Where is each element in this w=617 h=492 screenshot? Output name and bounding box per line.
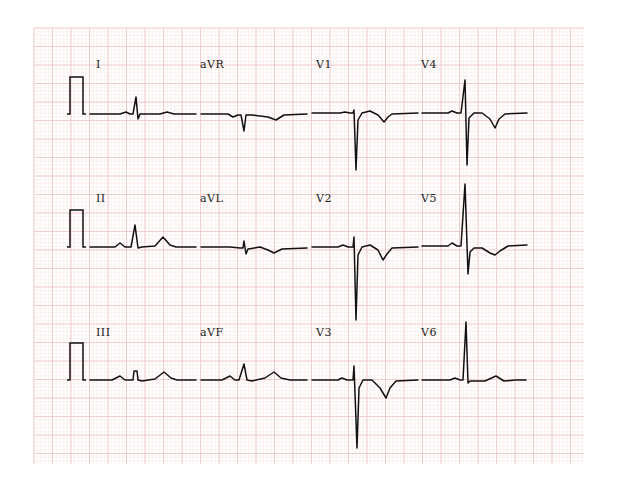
lead-label-v6: V6 bbox=[420, 326, 437, 339]
ecg-chart: IaVRV1V4IIaVLV2V5IIIaVFV3V6 bbox=[0, 0, 617, 492]
lead-label-v4: V4 bbox=[420, 58, 437, 71]
trace-avl bbox=[201, 241, 307, 254]
lead-label-ii: II bbox=[96, 192, 106, 205]
trace-avf bbox=[201, 364, 307, 381]
calibration-pulses bbox=[67, 77, 86, 380]
calibration-pulse-row-2 bbox=[67, 210, 86, 247]
calibration-pulse-row-3 bbox=[67, 343, 86, 380]
lead-label-iii: III bbox=[96, 326, 111, 339]
lead-label-i: I bbox=[96, 58, 101, 71]
calibration-pulse-row-1 bbox=[67, 77, 86, 114]
lead-label-v5: V5 bbox=[420, 192, 437, 205]
lead-label-avf: aVF bbox=[200, 326, 224, 339]
lead-label-avr: aVR bbox=[200, 58, 225, 71]
trace-ii bbox=[90, 225, 196, 248]
trace-i bbox=[90, 97, 196, 119]
lead-label-v1: V1 bbox=[315, 58, 332, 71]
trace-v2 bbox=[312, 237, 418, 320]
lead-label-v3: V3 bbox=[315, 326, 332, 339]
trace-v3 bbox=[312, 366, 418, 448]
lead-label-v2: V2 bbox=[315, 192, 332, 205]
lead-label-avl: aVL bbox=[200, 192, 224, 205]
